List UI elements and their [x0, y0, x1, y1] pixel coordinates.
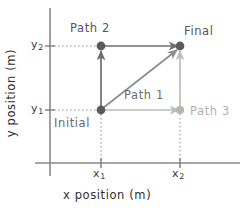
y1-sub: 1: [38, 107, 44, 116]
y-tick-label-y2: y2: [31, 38, 44, 52]
x2-sub: 2: [179, 172, 185, 181]
y-tick-label-y1: y1: [31, 102, 44, 116]
x-tick-label-x1: x1: [93, 167, 106, 181]
initial-point-label: Initial: [54, 116, 90, 130]
point-final: [176, 42, 185, 51]
point-corner-top-left: [97, 42, 106, 51]
final-point-label: Final: [184, 24, 214, 38]
x-tick-label-x2: x2: [172, 167, 185, 181]
path-3-label: Path 3: [190, 104, 230, 118]
x-axis-title: x position (m): [63, 188, 151, 202]
y-axis-title: y position (m): [4, 49, 18, 137]
path-1-label: Path 1: [124, 88, 164, 102]
point-corner-bottom-right: [176, 106, 184, 114]
y2-sub: 2: [38, 43, 44, 52]
x1-sub: 1: [100, 172, 106, 181]
path-2-label: Path 2: [70, 21, 110, 35]
diagram-canvas: Path 2 Final Path 1 Path 3 Initial y2 y1…: [0, 0, 244, 210]
point-initial: [97, 106, 106, 115]
